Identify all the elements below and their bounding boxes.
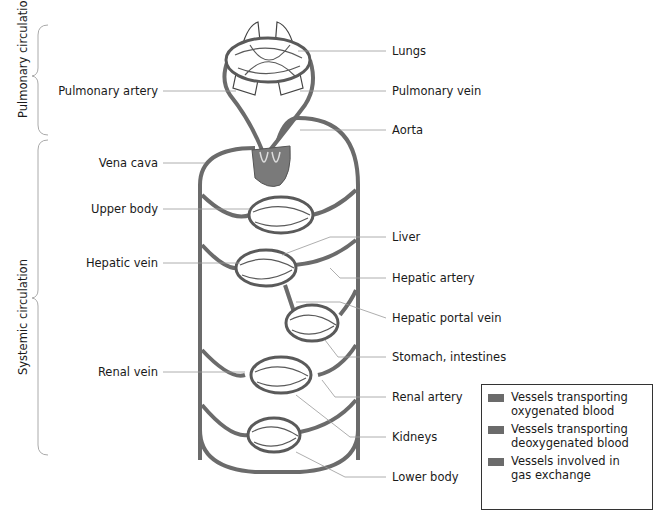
label-upper-body: Upper body	[40, 202, 158, 216]
label-hepatic-portal-vein: Hepatic portal vein	[392, 311, 502, 325]
label-renal-vein: Renal vein	[40, 365, 158, 379]
capillary-mesh	[235, 45, 336, 446]
legend: Vessels transportingoxygenated blood Ves…	[481, 384, 653, 510]
legend-item-oxygenated: Vessels transportingoxygenated blood	[488, 390, 646, 418]
label-liver: Liver	[392, 230, 420, 244]
label-renal-artery: Renal artery	[392, 390, 463, 404]
label-lower-body: Lower body	[392, 470, 459, 484]
label-hepatic-artery: Hepatic artery	[392, 271, 475, 285]
label-lungs: Lungs	[392, 44, 426, 58]
capillary-beds	[226, 38, 338, 452]
legend-item-gas-exchange: Vessels involved ingas exchange	[488, 454, 646, 482]
legend-swatch	[488, 394, 504, 402]
pulmonary-circulation-label: Pulmonary circulation	[16, 0, 30, 118]
label-vena-cava: Vena cava	[40, 156, 158, 170]
label-kidneys: Kidneys	[392, 430, 437, 444]
pulmonary-brace	[32, 25, 48, 135]
legend-swatch	[488, 458, 504, 466]
systemic-brace	[32, 140, 48, 455]
label-stomach-intestines: Stomach, intestines	[392, 350, 506, 364]
label-aorta: Aorta	[392, 123, 423, 137]
heart	[252, 146, 290, 186]
systemic-circulation-label: Systemic circulation	[16, 259, 30, 375]
label-pulmonary-vein: Pulmonary vein	[392, 84, 481, 98]
legend-swatch	[488, 426, 504, 434]
label-hepatic-vein: Hepatic vein	[40, 256, 158, 270]
legend-item-deoxygenated: Vessels transportingdeoxygenated blood	[488, 422, 646, 450]
label-pulmonary-artery: Pulmonary artery	[40, 84, 158, 98]
